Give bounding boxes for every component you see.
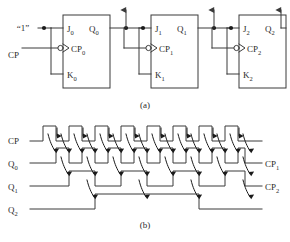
ff1-k-label: K1 [155,70,165,82]
ff0-one-junction [42,26,46,30]
figure-root: “1” CP J0 Q0 CP0 K0 J1 Q1 CP1 K1 J2 Q2 C… [0,0,290,242]
ff2-j-junction [229,26,233,30]
timing-label-cp: CP [8,136,19,146]
timing-label-q1: Q1 [8,182,18,194]
ff0-q-label: Q0 [89,24,99,36]
source-one-label: “1” [17,23,30,33]
ripple-counter-figure: “1” CP J0 Q0 CP0 K0 J1 Q1 CP1 K1 J2 Q2 C… [0,0,290,242]
timing-label-cp2: CP2 [265,182,279,194]
ff2-k-label: K2 [243,70,253,82]
flipflop-1[interactable] [124,10,231,88]
ff0-k-label: K0 [67,70,77,82]
ff0-cp-label: CP0 [71,44,85,56]
ff2-j-label: J2 [243,24,250,36]
waveform-cp [30,126,262,141]
timing-label-cp1: CP1 [265,159,279,171]
ff2-invert-bubble [234,45,239,50]
ff2-q-label: Q2 [265,24,275,36]
ff1-invert-bubble [146,45,151,50]
clock-input-label: CP [8,50,19,60]
ff1-j-junction [141,26,145,30]
timing-label-q2: Q2 [8,205,18,217]
caption-a: (a) [140,100,150,110]
ff2-cp-label: CP2 [247,44,261,56]
ff0-invert-bubble [58,45,63,50]
ff1-q-label: Q1 [177,24,187,36]
ff0-edge-triangle [63,44,69,52]
timing-label-q0: Q0 [8,159,18,171]
timing-diagram [30,126,262,209]
ff0-j-label: J0 [67,24,74,36]
ff1-cp-label: CP1 [159,44,173,56]
ff2-edge-triangle [239,44,245,52]
caption-b: (b) [140,220,151,230]
ff1-j-label: J1 [155,24,162,36]
ff1-edge-triangle [151,44,157,52]
